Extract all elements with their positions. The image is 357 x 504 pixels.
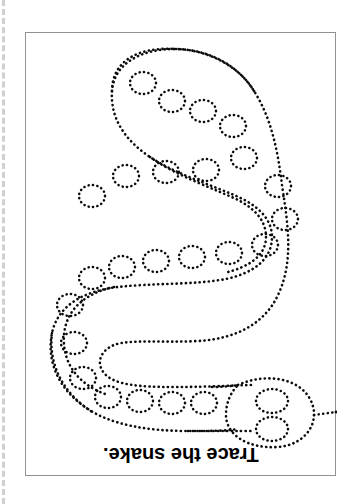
snake-body-outline-lower	[100, 49, 288, 387]
snake-spot	[159, 90, 185, 112]
snake-spot	[220, 115, 246, 137]
snake-spot	[70, 367, 96, 389]
snake-spot	[109, 256, 135, 278]
snake-spot	[113, 165, 139, 187]
snake-spot	[193, 159, 219, 181]
snake-spot	[190, 100, 216, 122]
snake-spot	[130, 72, 156, 94]
snake-spot	[79, 267, 105, 289]
snake-inner-curve-upper	[174, 49, 254, 91]
snake-spot	[159, 392, 185, 414]
snake-neck-lower	[212, 385, 238, 387]
snake-spot	[191, 392, 217, 414]
snake-head-outline	[226, 378, 314, 447]
snake-tongue-stem	[314, 412, 336, 415]
dashed-cut-line	[2, 0, 5, 504]
snake-spot	[79, 185, 105, 207]
snake-tongue-fork-upper	[336, 395, 337, 412]
snake-spot	[265, 175, 291, 197]
content-frame	[25, 32, 336, 476]
snake-spot	[216, 242, 242, 264]
snake-spot	[272, 208, 298, 230]
snake-spot	[95, 386, 121, 408]
worksheet-caption: Trace the snake.	[103, 445, 259, 465]
snake-tracing-figure[interactable]	[26, 33, 337, 477]
caption-row: Trace the snake.	[25, 438, 336, 472]
snake-inner-left-bend	[64, 287, 114, 395]
snake-tongue-fork-lower	[336, 412, 337, 428]
snake-eye-upper	[256, 389, 288, 413]
snake-spots-group	[57, 72, 298, 414]
snake-spot	[153, 161, 179, 183]
snake-spot	[127, 390, 153, 412]
snake-spot	[143, 250, 169, 272]
snake-spot	[179, 246, 205, 268]
worksheet-page: Trace the snake.	[0, 0, 357, 504]
snake-spot	[231, 147, 257, 169]
